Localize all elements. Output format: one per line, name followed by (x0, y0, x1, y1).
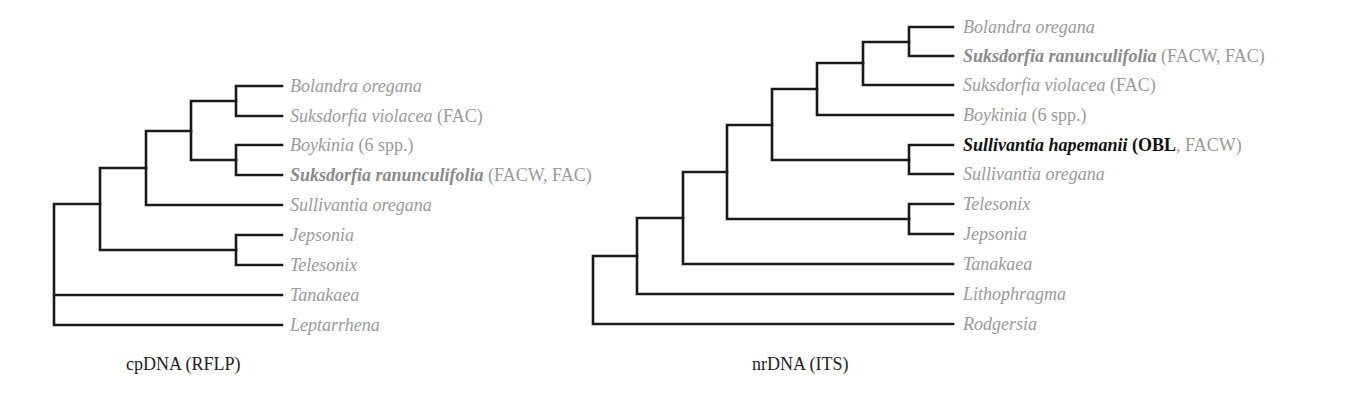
leaf-label: Telesonix (963, 194, 1030, 214)
note-open: ( (1128, 135, 1139, 155)
leaf-label: Boykinia (6 spp.) (963, 105, 1086, 125)
taxon-name: Boykinia (290, 135, 354, 155)
leaf-label: Suksdorfia violacea (FAC) (963, 75, 1156, 95)
leaf-label-highlighted: Suksdorfia ranunculifolia (FACW, FAC) (290, 165, 592, 185)
wetland-note: (FACW, FAC) (1157, 46, 1265, 66)
leaf-label: Leptarrhena (290, 315, 380, 335)
leaf-label: Sullivantia oregana (963, 164, 1105, 184)
taxon-name: Suksdorfia ranunculifolia (963, 46, 1157, 66)
taxon-name: Boykinia (963, 105, 1027, 125)
taxon-name: Sullivantia hapemanii (963, 135, 1128, 155)
taxon-name: Suksdorfia violacea (963, 75, 1105, 95)
taxon-name: Suksdorfia violacea (290, 106, 432, 126)
taxon-name: Bolandra oregana (290, 76, 422, 96)
cpdna-caption: cpDNA (RFLP) (126, 354, 241, 375)
taxon-name: Telesonix (963, 194, 1030, 214)
wetland-note: (OBL, FACW) (1128, 135, 1242, 155)
leaf-label: Tanakaea (290, 285, 359, 305)
taxon-name: Suksdorfia ranunculifolia (290, 165, 484, 185)
leaf-label: Tanakaea (963, 254, 1032, 274)
taxon-name: Leptarrhena (290, 315, 380, 335)
wetland-note: (FACW, FAC) (484, 165, 592, 185)
taxon-name: Telesonix (290, 255, 357, 275)
obl-indicator: OBL (1138, 135, 1176, 155)
taxon-name: Tanakaea (290, 285, 359, 305)
leaf-label: Bolandra oregana (963, 17, 1095, 37)
leaf-label-focal: Sullivantia hapemanii (OBL, FACW) (963, 135, 1242, 155)
taxon-name: Tanakaea (963, 254, 1032, 274)
leaf-label: Telesonix (290, 255, 357, 275)
wetland-note: (FAC) (1105, 75, 1155, 95)
species-count-note: (6 spp.) (1027, 105, 1087, 125)
leaf-label: Rodgersia (963, 314, 1037, 334)
note-rest: , FACW) (1176, 135, 1242, 155)
taxon-name: Jepsonia (963, 224, 1027, 244)
taxon-name: Jepsonia (290, 225, 354, 245)
leaf-label: Suksdorfia violacea (FAC) (290, 106, 483, 126)
leaf-label: Sullivantia oregana (290, 195, 432, 215)
leaf-label-highlighted: Suksdorfia ranunculifolia (FACW, FAC) (963, 46, 1265, 66)
taxon-name: Sullivantia oregana (290, 195, 432, 215)
taxon-name: Lithophragma (963, 284, 1066, 304)
leaf-label: Jepsonia (290, 225, 354, 245)
nrdna-caption: nrDNA (ITS) (752, 354, 849, 375)
taxon-name: Rodgersia (963, 314, 1037, 334)
species-count-note: (6 spp.) (354, 135, 414, 155)
leaf-label: Jepsonia (963, 224, 1027, 244)
leaf-label: Boykinia (6 spp.) (290, 135, 413, 155)
taxon-name: Sullivantia oregana (963, 164, 1105, 184)
wetland-note: (FAC) (432, 106, 482, 126)
taxon-name: Bolandra oregana (963, 17, 1095, 37)
leaf-label: Bolandra oregana (290, 76, 422, 96)
leaf-label: Lithophragma (963, 284, 1066, 304)
